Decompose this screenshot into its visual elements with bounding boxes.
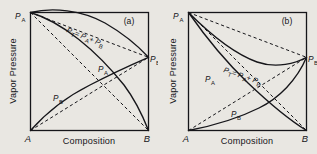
curve-label-pb-a: P B	[53, 94, 63, 105]
pt-sub3-a: B	[98, 43, 104, 50]
y-axis-title-b: Vapor Pressure	[168, 38, 178, 103]
x-tick-b-left: A	[182, 133, 189, 144]
curve-label-pb-b: P B	[231, 110, 241, 121]
curve-label-pa-b: P A	[205, 75, 215, 86]
vapor-pressure-composition-figure: (a) Vapor Pressure Composition A B P A P…	[0, 0, 317, 154]
endpoint-label-pb-a: P B	[150, 54, 158, 66]
x-tick-a-right: B	[144, 133, 150, 144]
panel-label-a: (a)	[124, 16, 135, 26]
endpoint-pa-base-a: P	[15, 11, 21, 21]
curve-label-pa-a: P A	[98, 65, 108, 76]
endpoint-pb-sub-a: B	[156, 60, 158, 66]
endpoint-pa-base-b: P	[173, 11, 179, 21]
x-tick-a-left: A	[24, 133, 31, 144]
pa-sub-b: A	[211, 80, 215, 86]
pt-sub3-b: B	[256, 81, 262, 88]
panel-label-b: (b)	[282, 16, 293, 26]
pb-sub-b: B	[237, 115, 241, 121]
endpoint-pb-sub-b: B	[314, 60, 317, 66]
y-axis-title-a: Vapor Pressure	[8, 38, 18, 103]
endpoint-pa-sub-b: A	[180, 17, 184, 23]
panel-b: (b) Vapor Pressure Composition A B P A P…	[159, 0, 317, 154]
endpoint-pa-sub-a: A	[22, 17, 26, 23]
x-axis-title-a: Composition	[63, 136, 116, 146]
pa-sub-a: A	[104, 70, 108, 76]
pb-sub-a: B	[59, 99, 63, 105]
curve-label-pt-a: P T = P A + P B	[65, 26, 106, 50]
curve-pb-ideal-b	[189, 57, 307, 130]
curve-label-pt-b: P T = P A + P B	[222, 65, 263, 88]
endpoint-label-pb-b: P B	[308, 54, 317, 66]
x-axis-title-b: Composition	[221, 136, 274, 146]
panel-a: (a) Vapor Pressure Composition A B P A P…	[0, 0, 158, 154]
endpoint-label-pa-a: P A	[15, 11, 26, 23]
endpoint-label-pa-b: P A	[173, 11, 184, 23]
x-tick-b-right: B	[302, 133, 308, 144]
